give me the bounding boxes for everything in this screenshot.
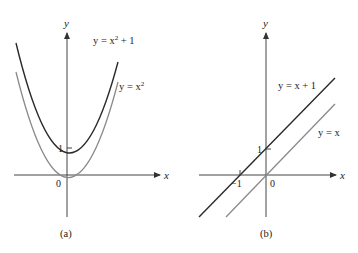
axis-y-label: y [262,17,268,29]
tick-y-label: 1 [257,144,262,155]
tick-x-label: −1 [231,178,242,189]
label-x2-plus-1: y = x2 + 1 [93,34,135,46]
tick-y-label: 1 [58,143,63,154]
axis-x-label: x [339,169,345,181]
caption-a: (a) [60,228,72,240]
line-x-plus-1 [199,78,335,217]
origin-label: 0 [56,178,61,189]
label-x-plus-1: y = x + 1 [278,80,316,91]
panel-a: y x 0 1 y = x2 + 1 y = x2 (a) [14,17,169,240]
axis-y-label: y [63,17,69,29]
figure: y x 0 1 y = x2 + 1 y = x2 (a) y x 0 1 −1… [0,0,358,253]
line-x [226,104,335,217]
label-x2: y = x2 [119,80,145,92]
panel-b: y x 0 1 −1 y = x + 1 y = x (b) [199,17,345,240]
label-x: y = x [318,127,340,138]
origin-label: 0 [270,178,275,189]
axis-x-label: x [163,169,169,181]
caption-b: (b) [260,228,273,240]
